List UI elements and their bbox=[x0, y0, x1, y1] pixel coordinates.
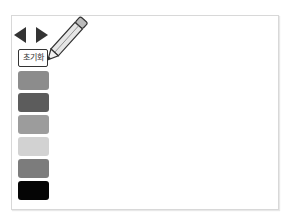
pencil-icon bbox=[40, 14, 88, 70]
color-swatch-black[interactable] bbox=[18, 181, 49, 200]
color-swatch-light-gray[interactable] bbox=[18, 137, 49, 156]
color-swatch-medium-gray[interactable] bbox=[18, 115, 49, 134]
color-swatch-slate-gray[interactable] bbox=[18, 159, 49, 178]
prev-arrow-icon[interactable] bbox=[14, 27, 26, 43]
color-swatch-dark-gray[interactable] bbox=[18, 93, 49, 112]
color-swatch-gray[interactable] bbox=[18, 71, 49, 90]
